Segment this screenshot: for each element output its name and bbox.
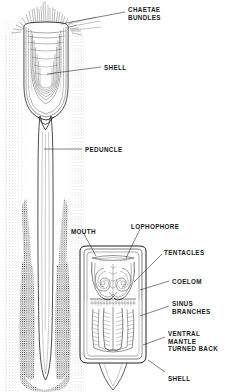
label-shell-lower: SHELL bbox=[168, 375, 190, 383]
label-tentacles: TENTACLES bbox=[164, 249, 204, 257]
peduncle-detail bbox=[38, 116, 53, 380]
label-peduncle: PEDUNCLE bbox=[85, 146, 122, 154]
label-sinus-branches: SINUS BRANCHES bbox=[172, 300, 210, 315]
label-ventral-mantle: VENTRAL MANTLE TURNED BACK bbox=[168, 330, 218, 353]
label-shell-upper: SHELL bbox=[104, 64, 126, 72]
label-coelom: COELOM bbox=[172, 278, 202, 286]
label-mouth: MOUTH bbox=[71, 228, 96, 236]
upper-shell bbox=[24, 22, 68, 120]
label-lophophore: LOPHOPHORE bbox=[131, 223, 179, 231]
label-chaetae-bundles: CHAETAE BUNDLES bbox=[128, 6, 161, 21]
